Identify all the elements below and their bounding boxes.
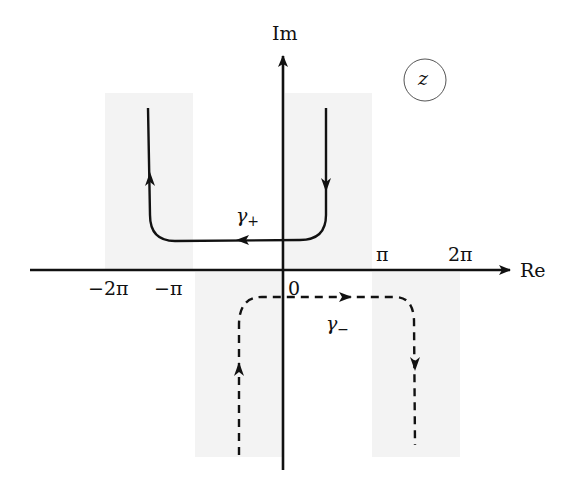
axis-label-re: Re [520,259,546,281]
gamma-subscript-minus: − [337,321,349,337]
tick-label-pi: π [376,243,389,265]
gamma-subscript-plus: + [247,213,259,229]
contour-label-gamma-plus: γ+ [236,204,259,226]
tick-label-neg-2pi: −2π [88,277,129,299]
complex-plane-diagram [0,0,585,491]
tick-label-2pi: 2π [448,243,473,265]
tick-label-zero: 0 [288,277,300,299]
plane-label-z: z [418,67,428,89]
axis-label-im: Im [272,22,298,44]
contour-label-gamma-minus: γ− [326,312,349,334]
gamma-symbol: γ [236,204,247,226]
gamma-symbol: γ [326,312,337,334]
tick-label-neg-pi: −π [154,277,182,299]
arrow-right-icon [339,292,352,302]
